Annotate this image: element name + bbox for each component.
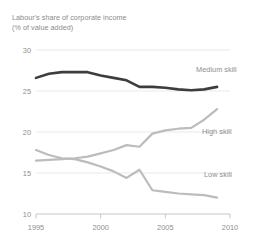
tickmarks-group xyxy=(36,214,230,219)
line-chart-svg: 1015202530 1995200020052010 Medium skill… xyxy=(0,0,259,244)
x-axis-tick-2005: 2005 xyxy=(157,223,173,232)
x-axis-tick-2000: 2000 xyxy=(92,223,108,232)
series-label-medium: Medium skill xyxy=(196,65,237,74)
y-axis-tick-15: 15 xyxy=(23,169,31,178)
y-axis-tick-20: 20 xyxy=(23,128,31,137)
x-axis-tick-1995: 1995 xyxy=(28,223,44,232)
series-line-low-skill xyxy=(36,150,217,198)
gridlines-group xyxy=(36,50,230,214)
series-label-low: Low skill xyxy=(204,170,232,179)
plot-area: 1015202530 1995200020052010 Medium skill… xyxy=(0,0,259,244)
y-axis-labels-group: 1015202530 xyxy=(23,46,31,219)
x-axis-labels-group: 1995200020052010 xyxy=(28,223,238,232)
chart-container: Labour's share of corporate income (% of… xyxy=(0,0,259,244)
y-axis-tick-10: 10 xyxy=(23,210,31,219)
series-label-high: High skill xyxy=(202,127,232,136)
series-line-high-skill xyxy=(36,109,217,161)
y-axis-tick-25: 25 xyxy=(23,87,31,96)
x-axis-tick-2010: 2010 xyxy=(222,223,238,232)
series-line-medium-skill xyxy=(36,72,217,90)
y-axis-tick-30: 30 xyxy=(23,46,31,55)
